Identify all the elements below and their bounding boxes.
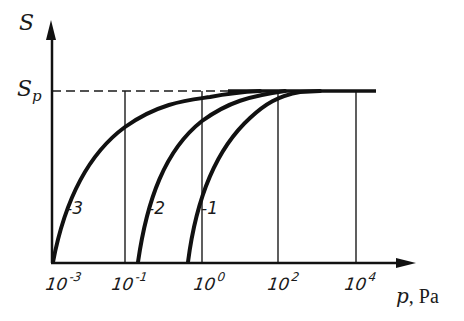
tick-exponent: -1 (134, 270, 148, 284)
curve-label-1: -1 (201, 198, 218, 218)
y-axis-arrow-icon (46, 20, 56, 40)
tick-exponent: -3 (68, 270, 82, 284)
tick-base: 10 (110, 274, 134, 294)
x-axis-variable: p (396, 284, 409, 308)
tick-base: 10 (192, 274, 216, 294)
x-axis-label: p, Pa (396, 284, 439, 308)
sp-label-main: S (17, 76, 32, 101)
y-axis-label: S (19, 10, 34, 35)
curve-label-2: -2 (148, 198, 165, 218)
x-axis-unit: , Pa (409, 285, 439, 307)
curve-3 (53, 91, 260, 262)
x-tick-label: 100 (192, 272, 225, 294)
tick-base: 10 (343, 274, 367, 294)
x-tick-label: 102 (266, 272, 299, 294)
tick-base: 10 (266, 274, 290, 294)
tick-base: 10 (44, 274, 68, 294)
x-axis-arrow-icon (396, 258, 416, 268)
x-tick-label: 104 (343, 272, 376, 294)
curve-label-3: -3 (66, 198, 83, 218)
sp-label: Sp (17, 76, 42, 105)
x-tick-label: 10-1 (110, 272, 148, 294)
x-tick-label: 10-3 (44, 272, 82, 294)
sp-label-subscript: p (32, 87, 42, 105)
